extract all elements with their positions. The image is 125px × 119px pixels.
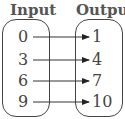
mapping-arrows [0,0,125,119]
